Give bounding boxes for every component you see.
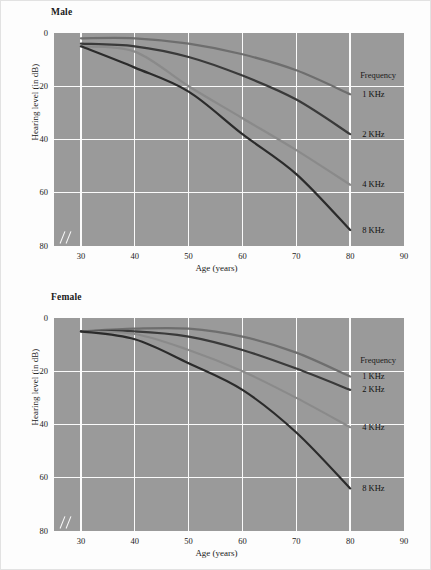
panel-female: Female 02040608030405060708090 Frequency…	[1, 286, 431, 570]
y-tick-label: 80	[14, 526, 48, 536]
x-tick-label: 50	[174, 251, 204, 261]
figure-hearing-level-by-age: Male 02040608030405060708090 Frequency1 …	[0, 0, 431, 570]
legend-item-4-khz[interactable]: 4 KHz	[362, 422, 384, 432]
x-tick-label: 30	[66, 536, 96, 546]
legend-item-4-khz[interactable]: 4 KHz	[362, 179, 384, 189]
y-tick-label: 60	[14, 187, 48, 197]
legend-title: Frequency	[360, 70, 396, 80]
chart-lines-female	[54, 318, 404, 531]
panel-title-male: Male	[51, 7, 72, 17]
x-tick-label: 40	[120, 251, 150, 261]
x-tick-label: 60	[227, 251, 257, 261]
x-axis-label-male: Age (years)	[1, 263, 431, 273]
x-tick-label: 60	[227, 536, 257, 546]
x-tick-label: 70	[281, 536, 311, 546]
y-axis-label-female: Hearing level (in dB)	[30, 317, 40, 457]
legend-title: Frequency	[360, 355, 396, 365]
series-line-4-khz	[81, 331, 350, 427]
legend-item-2-khz[interactable]: 2 KHz	[362, 129, 384, 139]
x-tick-label: 30	[66, 251, 96, 261]
series-line-8-khz	[81, 46, 350, 230]
x-tick-label: 40	[120, 536, 150, 546]
y-axis-label-male: Hearing level (in dB)	[30, 32, 40, 172]
plot-area-female: 02040608030405060708090 Frequency1 KHz2 …	[54, 318, 404, 531]
x-tick-label: 90	[389, 536, 419, 546]
series-line-8-khz	[81, 331, 350, 488]
y-tick-label: 80	[14, 241, 48, 251]
legend-item-8-khz[interactable]: 8 KHz	[362, 483, 384, 493]
panel-male: Male 02040608030405060708090 Frequency1 …	[1, 1, 431, 286]
legend-item-2-khz[interactable]: 2 KHz	[362, 384, 384, 394]
series-line-2-khz	[81, 44, 350, 135]
series-line-4-khz	[81, 46, 350, 184]
y-tick-label: 60	[14, 472, 48, 482]
panel-title-female: Female	[51, 292, 82, 302]
x-axis-label-female: Age (years)	[1, 548, 431, 558]
x-tick-label: 80	[335, 536, 365, 546]
x-tick-label: 80	[335, 251, 365, 261]
x-tick-label: 90	[389, 251, 419, 261]
plot-area-male: 02040608030405060708090 Frequency1 KHz2 …	[54, 33, 404, 246]
x-tick-label: 50	[174, 536, 204, 546]
x-tick-label: 70	[281, 251, 311, 261]
legend-item-8-khz[interactable]: 8 KHz	[362, 225, 384, 235]
chart-lines-male	[54, 33, 404, 246]
legend-item-1-khz[interactable]: 1 KHz	[362, 371, 384, 381]
legend-item-1-khz[interactable]: 1 KHz	[362, 89, 384, 99]
